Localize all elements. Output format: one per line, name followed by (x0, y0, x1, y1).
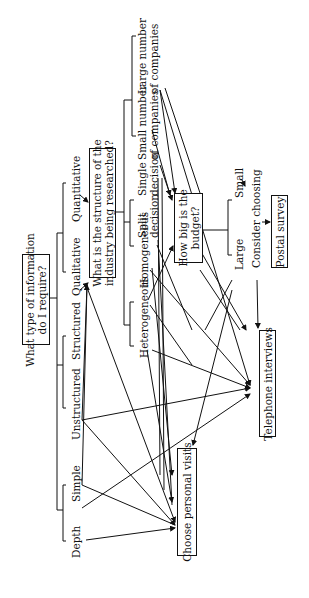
budget-question-box: How big is the budget? (174, 193, 203, 263)
label-consider-choosing: Consider choosing (250, 169, 262, 268)
label-qualitative: Qualitative (70, 237, 82, 296)
postal-survey-text: Postal survey (274, 196, 286, 267)
root-question-box: What type of information do I require? (22, 254, 50, 345)
label-large: Large (233, 239, 245, 270)
label-small-number-companies: Small number of companies (136, 85, 160, 160)
root-question-text: What type of information do I require? (24, 233, 48, 367)
survey-method-decision-diagram: What type of information do I require? D… (0, 0, 309, 598)
label-heterogeneous: Heterogeneous (138, 276, 150, 358)
telephone-interviews-text: Telephone interviews (262, 327, 274, 441)
label-split-decision: Split decision (136, 194, 160, 238)
industry-question-box: What is the structure of the industry be… (89, 148, 116, 278)
label-quantitative: Quantitative (70, 156, 82, 222)
budget-question-text: How big is the budget? (177, 189, 201, 266)
label-small: Small (233, 168, 245, 198)
label-depth: Depth (70, 526, 82, 558)
label-structured: Structured (70, 302, 82, 360)
postal-survey-box: Postal survey (271, 195, 288, 268)
personal-visits-box: Choose personal visits (177, 448, 197, 556)
label-large-number-companies: Large number of companies (136, 18, 160, 94)
label-simple: Simple (70, 465, 82, 502)
telephone-interviews-box: Telephone interviews (259, 330, 276, 437)
industry-question-text: What is the structure of the industry be… (91, 139, 115, 287)
label-unstructured: Unstructured (70, 368, 82, 440)
personal-visits-text: Choose personal visits (181, 442, 193, 561)
